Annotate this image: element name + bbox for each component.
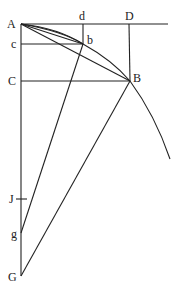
geometry-diagram: A d D c b C B J g G xyxy=(0,0,178,292)
label-D: D xyxy=(125,9,134,23)
diagram-canvas: A d D c b C B J g G xyxy=(0,0,178,292)
label-G: G xyxy=(8,270,17,284)
label-g: g xyxy=(11,227,17,241)
label-b: b xyxy=(87,33,93,47)
label-A: A xyxy=(7,17,16,31)
line-BG xyxy=(21,81,130,276)
label-J: J xyxy=(9,192,14,206)
line-bg xyxy=(21,44,83,233)
label-d: d xyxy=(79,9,85,23)
label-C: C xyxy=(8,74,16,88)
line-DB xyxy=(129,24,130,81)
chord-Ab xyxy=(21,24,83,44)
label-B: B xyxy=(133,71,141,85)
label-c: c xyxy=(11,37,16,51)
chord-AB xyxy=(21,24,130,81)
